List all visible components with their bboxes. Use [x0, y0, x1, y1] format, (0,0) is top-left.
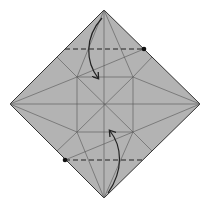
origami-diagram [0, 0, 211, 208]
reference-dot [142, 47, 147, 52]
reference-dot [63, 158, 68, 163]
